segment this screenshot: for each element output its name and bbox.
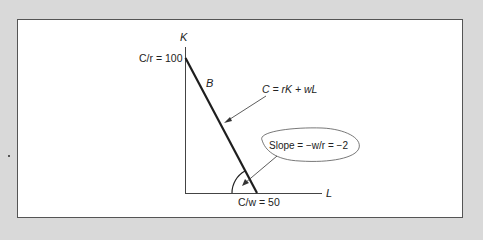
- point-b-label: B: [206, 78, 213, 89]
- l-axis-label: L: [326, 188, 332, 199]
- slope-arrow: [245, 156, 277, 183]
- k-intercept-label: C/r = 100: [139, 53, 182, 64]
- isocost-line: [186, 58, 258, 193]
- equation-label: C = rK + wL: [262, 84, 317, 95]
- k-axis-label: K: [180, 32, 187, 43]
- l-intercept-label: C/w = 50: [238, 197, 280, 208]
- slope-note: Slope = −w/r = −2: [269, 141, 348, 151]
- slope-angle-arc: [232, 171, 245, 193]
- equation-arrow: [227, 96, 266, 121]
- equation-arrowhead-icon: [224, 117, 232, 123]
